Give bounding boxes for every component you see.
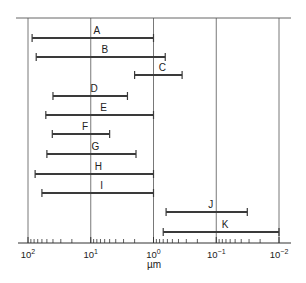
bar-label: B [101, 44, 108, 55]
range-bar-c: C [135, 62, 182, 79]
range-bar-f: F [52, 121, 109, 138]
bar-label: E [100, 102, 107, 113]
range-bar-e: E [46, 102, 154, 119]
range-bar-g: G [47, 141, 136, 158]
tick-label: 10−2 [270, 248, 289, 260]
bar-label: J [208, 199, 213, 210]
bar-label: G [92, 141, 100, 152]
bar-label: C [159, 62, 166, 73]
range-bar-i: I [42, 180, 154, 197]
x-axis-ticks [28, 237, 279, 243]
range-bar-a: A [32, 25, 153, 42]
tick-label: 10−1 [207, 248, 226, 260]
x-axis-title: µm [147, 259, 161, 270]
bar-label: I [100, 180, 103, 191]
bar-label: A [93, 25, 100, 36]
bar-label: F [82, 121, 88, 132]
range-bar-k: K [163, 219, 279, 236]
range-bar-h: H [35, 161, 153, 178]
bar-label: K [222, 219, 229, 230]
tick-label: 102 [21, 248, 36, 260]
bar-label: D [91, 83, 98, 94]
range-bar-b: B [36, 44, 165, 61]
decade-gridlines [28, 18, 279, 243]
tick-label: 101 [84, 248, 99, 260]
range-bar-j: J [166, 199, 247, 216]
range-bar-d: D [53, 83, 127, 100]
range-chart: 10210110010−110−2 ABCDEFGHIJK µm [0, 0, 306, 283]
bar-label: H [95, 161, 102, 172]
range-bars: ABCDEFGHIJK [32, 25, 279, 236]
